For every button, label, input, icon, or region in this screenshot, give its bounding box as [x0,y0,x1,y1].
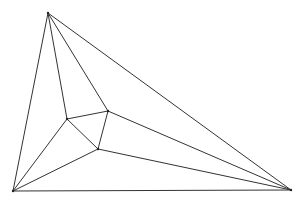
edge-a-c [67,119,98,149]
edge-t-bl [13,13,48,191]
graph-vertices [12,12,292,192]
edge-t-br [48,13,291,190]
vertex-t [47,12,49,14]
edge-b-c [98,111,108,149]
graph-edges [13,13,291,191]
edge-a-b [67,111,108,119]
edge-bl-br [13,190,291,191]
vertex-br [290,189,292,191]
edge-bl-c [13,149,98,191]
vertex-b [107,110,109,112]
vertex-bl [12,190,14,192]
vertex-c [97,148,99,150]
vertex-a [66,118,68,120]
edge-bl-a [13,119,67,191]
graph-diagram [0,0,304,206]
